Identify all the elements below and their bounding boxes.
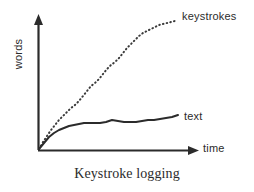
x-axis-label: time (203, 142, 225, 154)
x-axis (38, 146, 199, 155)
series-text-line (39, 115, 178, 149)
series-label-text: text (184, 110, 203, 122)
chart-plot-area (0, 0, 254, 192)
y-axis (34, 14, 43, 150)
y-axis-label: words (12, 28, 24, 80)
keystroke-logging-figure: words time keystrokes text Keystroke log… (0, 0, 254, 192)
series-label-keystrokes: keystrokes (182, 10, 237, 22)
figure-caption: Keystroke logging (0, 166, 254, 182)
